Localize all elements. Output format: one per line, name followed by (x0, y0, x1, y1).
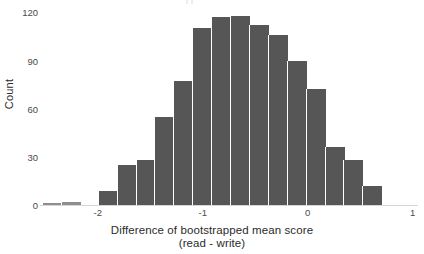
histogram-bar (136, 160, 157, 205)
y-tick-label: 120 (10, 8, 38, 18)
histogram-bar (211, 17, 232, 205)
x-axis-title: Difference of bootstrapped mean score (r… (0, 224, 424, 250)
x-tick-label: 0 (293, 208, 323, 218)
x-axis-tick-labels: -2-101 (0, 208, 424, 222)
x-tick-label: 1 (398, 208, 424, 218)
histogram-bar (249, 25, 270, 205)
cropped-title-artifact (186, 0, 208, 4)
histogram-bar (362, 186, 383, 205)
y-tick-label: 30 (10, 153, 38, 163)
plot-area (40, 6, 418, 205)
y-tick-label: 90 (10, 57, 38, 67)
histogram-bar (117, 165, 138, 205)
histogram-bar (287, 61, 308, 205)
histogram-bar (154, 117, 175, 205)
histogram-bar (268, 35, 289, 205)
x-axis-title-line1: Difference of bootstrapped mean score (111, 224, 313, 236)
histogram-bar (306, 89, 327, 205)
histogram-bar (325, 147, 346, 205)
x-tick-label: -2 (83, 208, 113, 218)
x-axis-title-line2: (read - write) (0, 237, 424, 250)
histogram-bars (40, 6, 418, 205)
histogram-bar (98, 191, 119, 205)
histogram-bar (343, 160, 364, 205)
histogram-figure: Count 0306090120 -2-101 Difference of bo… (0, 0, 424, 254)
x-tick-label: -1 (188, 208, 218, 218)
histogram-bar (173, 81, 194, 205)
y-tick-label: 60 (10, 105, 38, 115)
histogram-bar (192, 28, 213, 205)
histogram-bar (230, 16, 251, 205)
x-axis-line (40, 205, 418, 206)
